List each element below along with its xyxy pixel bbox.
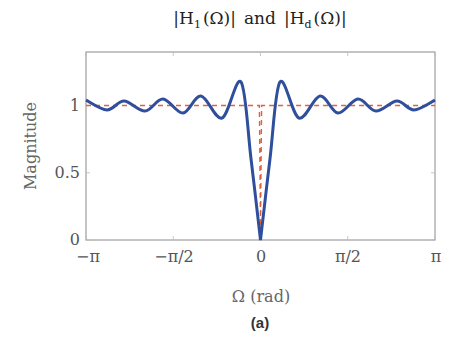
title-h1: |H [173,8,194,28]
xtick-label-neg-pi: −π [76,247,100,266]
xtick-label-neg-pi-half: −π/2 [154,247,194,266]
title-h1-sub: 1 [194,18,201,31]
title-and: and [244,8,276,28]
title-hd-arg: (Ω)| [314,8,347,28]
subfigure-label: (a) [251,314,269,331]
chart-title: |H1(Ω)|and|Hd(Ω)| [173,8,346,31]
desired-response-line [86,106,435,227]
title-h1-arg: (Ω)| [203,8,236,28]
ytick-label-1: 1 [70,96,80,115]
chart: |H1(Ω)|and|Hd(Ω)| 0 0.5 1 −π −π/2 0 π/2 … [0,0,459,350]
ytick-label-0.5: 0.5 [55,163,80,182]
title-hd-sub: d [305,18,312,31]
x-axis-label: Ω (rad) [232,287,290,306]
y-axis-label: Magnitude [21,102,40,190]
xtick-label-pi: π [431,247,442,266]
xtick-label-zero: 0 [256,247,266,266]
title-hd: |H [284,8,305,28]
xtick-label-pi-half: π/2 [335,247,361,266]
